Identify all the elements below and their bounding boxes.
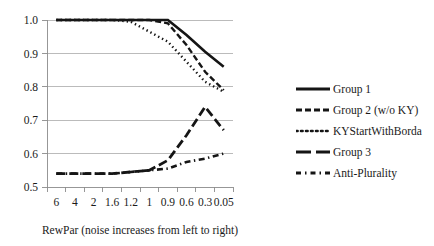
gridlines: [47, 20, 233, 154]
x-tick-label: 0.3: [198, 196, 213, 208]
x-axis: 6 4 2 1.6 1.2 1 0.9 0.6 0.3 0.05: [47, 187, 234, 208]
legend-item-group-2: Group 2 (w/o KY): [296, 99, 434, 120]
y-tick-label: 0.8: [24, 81, 39, 93]
legend-swatch-solid-icon: [296, 83, 330, 95]
y-tick-label: 1.0: [24, 14, 39, 26]
chart-figure: 1.0 0.9 0.8 0.7 0.6 0.5 6: [0, 0, 434, 246]
series-line-group-2-w-o-ky: [56, 20, 223, 90]
legend-label: Anti-Plurality: [333, 167, 397, 179]
series-line-group-3: [56, 107, 223, 174]
legend-label: KYStartWithBorda: [333, 125, 422, 137]
series-line-group-1: [56, 20, 223, 67]
x-tick-label: 1: [146, 196, 152, 208]
legend-swatch-long-dash-icon: [296, 146, 330, 158]
line-chart-svg: 1.0 0.9 0.8 0.7 0.6 0.5 6: [0, 0, 290, 246]
x-tick-label: 1.2: [124, 196, 139, 208]
x-tick-label: 0.6: [179, 196, 194, 208]
legend-label: Group 2 (w/o KY): [333, 104, 418, 116]
legend-label: Group 3: [333, 146, 371, 158]
y-tick-label: 0.6: [24, 148, 39, 160]
legend-item-kystartwithborda: KYStartWithBorda: [296, 120, 434, 141]
x-tick-label: 2: [91, 196, 97, 208]
series-line-kystartwithborda: [56, 20, 223, 92]
y-tick-label: 0.5: [24, 181, 39, 193]
legend-swatch-dotted-icon: [296, 125, 330, 137]
x-tick-label: 1.6: [105, 196, 120, 208]
y-tick-label: 0.9: [24, 48, 39, 60]
legend-swatch-dash-dot-icon: [296, 167, 330, 179]
y-axis: 1.0 0.9 0.8 0.7 0.6 0.5: [24, 14, 47, 193]
chart-legend: Group 1 Group 2 (w/o KY) KYStartWithBord…: [296, 78, 434, 183]
legend-item-anti-plurality: Anti-Plurality: [296, 162, 434, 183]
x-axis-title: RewPar (noise increases from left to rig…: [42, 224, 238, 237]
x-tick-label: 0.9: [161, 196, 176, 208]
x-tick-label: 0.05: [214, 196, 234, 208]
legend-item-group-3: Group 3: [296, 141, 434, 162]
x-tick-label: 4: [72, 196, 78, 208]
legend-swatch-dashed-icon: [296, 104, 330, 116]
legend-label: Group 1: [333, 83, 371, 95]
x-tick-label: 6: [53, 196, 59, 208]
data-series-layer: [56, 20, 223, 174]
y-tick-label: 0.7: [24, 114, 39, 126]
plot-area-container: 1.0 0.9 0.8 0.7 0.6 0.5 6: [0, 0, 290, 246]
legend-item-group-1: Group 1: [296, 78, 434, 99]
